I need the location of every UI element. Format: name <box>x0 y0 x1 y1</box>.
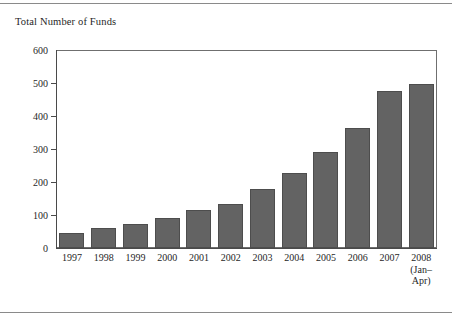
x-tick-label-year: 2006 <box>348 252 368 263</box>
x-tick-label-year: 2008 <box>411 252 431 263</box>
bar <box>91 228 116 248</box>
bar <box>282 173 307 248</box>
x-tick-label-year: 2001 <box>189 252 209 263</box>
x-tick-label: 2008(Jan–Apr) <box>402 252 440 287</box>
x-tick-label-year: 2003 <box>252 252 272 263</box>
y-tick-label: 100 <box>14 210 48 221</box>
figure-container: Total Number of Funds 010020030040050060… <box>0 0 452 316</box>
top-divider-rule <box>0 3 452 4</box>
x-tick-label-year: 2000 <box>157 252 177 263</box>
bar <box>218 204 243 248</box>
x-tick-label-sub: (Jan– <box>402 264 440 276</box>
bar <box>345 128 370 248</box>
bar-series <box>56 50 437 248</box>
x-tick-label-year: 2007 <box>379 252 399 263</box>
y-tick-label: 400 <box>14 111 48 122</box>
bottom-divider-rule <box>0 312 452 313</box>
bar <box>123 224 148 248</box>
bar <box>377 91 402 248</box>
y-tick-label: 0 <box>14 243 48 254</box>
x-axis-line <box>56 248 437 249</box>
y-tick-label: 300 <box>14 144 48 155</box>
y-axis-tick-labels: 0100200300400500600 <box>8 0 48 316</box>
y-tick-label: 600 <box>14 45 48 56</box>
y-tick-label: 500 <box>14 78 48 89</box>
bar <box>250 189 275 248</box>
x-axis-tick-labels: 1997199819992000200120022003200420052006… <box>56 252 437 312</box>
x-tick-label-year: 1998 <box>94 252 114 263</box>
x-tick-label-year: 1999 <box>125 252 145 263</box>
y-tick-label: 200 <box>14 177 48 188</box>
x-tick-label-year: 2005 <box>316 252 336 263</box>
bar <box>155 218 180 248</box>
x-tick-label-year: 2002 <box>221 252 241 263</box>
x-tick-label-year: 2004 <box>284 252 304 263</box>
bar <box>186 210 211 248</box>
x-tick-label-year: 1997 <box>62 252 82 263</box>
bar <box>409 84 434 248</box>
bar <box>59 233 84 249</box>
bar <box>313 152 338 248</box>
x-tick-label-sub: Apr) <box>402 275 440 287</box>
